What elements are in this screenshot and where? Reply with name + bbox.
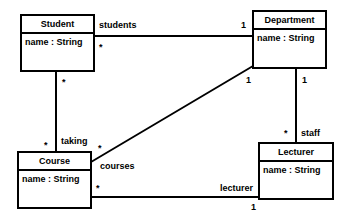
role-label-staff: staff xyxy=(301,128,320,138)
multiplicity-dept-course-one: 1 xyxy=(246,75,251,85)
role-label-taking: taking xyxy=(61,136,88,146)
multiplicity-student-course-top: * xyxy=(62,77,66,87)
multiplicity-course-lecturer-many: * xyxy=(96,183,100,193)
multiplicity-student-dept-one: 1 xyxy=(241,20,246,30)
class-student-name: Student xyxy=(22,16,93,34)
multiplicity-dept-lecturer-many: * xyxy=(284,128,288,138)
class-course[interactable]: Course name : String xyxy=(17,151,92,209)
class-department[interactable]: Department name : String xyxy=(252,10,327,69)
class-department-name: Department xyxy=(254,12,325,30)
class-lecturer-attribute: name : String xyxy=(260,162,332,175)
class-lecturer[interactable]: Lecturer name : String xyxy=(258,142,334,200)
role-label-students: students xyxy=(99,20,137,30)
class-student-attribute: name : String xyxy=(22,34,93,47)
class-lecturer-name: Lecturer xyxy=(260,144,332,162)
class-department-attribute: name : String xyxy=(254,30,325,43)
multiplicity-dept-course-many: * xyxy=(98,143,102,153)
multiplicity-dept-lecturer-one: 1 xyxy=(302,75,307,85)
class-course-name: Course xyxy=(19,153,90,171)
class-course-attribute: name : String xyxy=(19,171,90,184)
role-label-courses: courses xyxy=(100,161,135,171)
class-student[interactable]: Student name : String xyxy=(20,14,95,72)
multiplicity-course-lecturer-one: 1 xyxy=(251,202,256,212)
multiplicity-student-course-bottom: * xyxy=(44,140,48,150)
multiplicity-student-dept-many: * xyxy=(99,42,103,52)
assoc-department-course xyxy=(91,66,253,162)
role-label-lecturer: lecturer xyxy=(220,183,253,193)
